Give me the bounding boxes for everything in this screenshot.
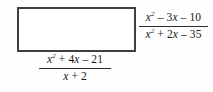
fraction-bottom: x2 + 4x – 21 x + 2 [39, 54, 111, 82]
fraction-right-numerator: x2 – 3x – 10 [146, 12, 201, 25]
numerator-term2: + 4 [56, 53, 74, 65]
denominator-term2: + 2 [68, 70, 86, 82]
fraction-bottom-denominator: x + 2 [63, 70, 87, 83]
numerator-term2: – 3 [155, 11, 173, 23]
fraction-bottom-numerator: x2 + 4x – 21 [47, 54, 103, 67]
fraction-right-bar [139, 26, 208, 27]
math-problem-canvas: x2 – 3x – 10 x2 + 2x – 35 x2 + 4x – 21 x… [0, 0, 213, 92]
fraction-bottom-bar [39, 68, 111, 69]
numerator-term3: – 10 [178, 11, 202, 23]
fraction-right-denominator: x2 + 2x – 35 [146, 28, 202, 41]
denominator-term2: + 2 [154, 28, 172, 40]
denominator-term3: – 35 [178, 28, 202, 40]
fraction-right: x2 – 3x – 10 x2 + 2x – 35 [139, 12, 208, 40]
numerator-term3: – 21 [80, 53, 104, 65]
empty-answer-box[interactable] [17, 7, 136, 52]
